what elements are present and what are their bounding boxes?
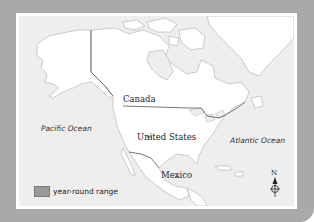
label-canada: Canada bbox=[123, 94, 156, 104]
north-america-map: Canada United States Mexico Pacific Ocea… bbox=[19, 16, 294, 206]
map-landmass bbox=[19, 16, 294, 206]
compass-rose-icon: N bbox=[268, 169, 282, 199]
label-atlantic-ocean: Atlantic Ocean bbox=[230, 136, 285, 145]
map-frame: Canada United States Mexico Pacific Ocea… bbox=[0, 0, 314, 222]
label-pacific-ocean: Pacific Ocean bbox=[41, 124, 92, 133]
label-mexico: Mexico bbox=[161, 170, 192, 180]
legend-label: year-round range bbox=[53, 187, 118, 196]
legend-swatch-range bbox=[34, 186, 50, 197]
map-legend: year-round range bbox=[34, 186, 118, 197]
label-united-states: United States bbox=[137, 132, 196, 142]
